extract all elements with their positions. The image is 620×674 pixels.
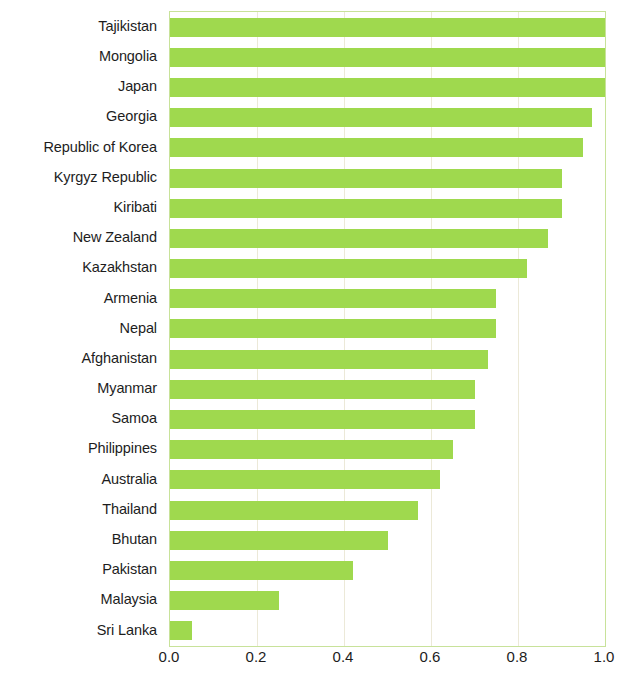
bar bbox=[170, 48, 605, 67]
bar bbox=[170, 78, 605, 97]
y-axis-label: Afghanistan bbox=[0, 343, 163, 373]
x-tick-label: 0.0 bbox=[159, 648, 180, 665]
bar-row bbox=[170, 314, 605, 344]
bar bbox=[170, 591, 279, 610]
y-axis-label: Kiribati bbox=[0, 192, 163, 222]
y-axis-label: Thailand bbox=[0, 494, 163, 524]
x-axis-tick-labels: 0.00.20.40.60.81.0 bbox=[169, 648, 606, 674]
y-axis-category-labels: TajikistanMongoliaJapanGeorgiaRepublic o… bbox=[0, 11, 163, 645]
y-axis-label: Tajikistan bbox=[0, 11, 163, 41]
bar-row bbox=[170, 616, 605, 646]
y-axis-label: Georgia bbox=[0, 102, 163, 132]
bar bbox=[170, 18, 605, 37]
bar-row bbox=[170, 374, 605, 404]
bar-row bbox=[170, 284, 605, 314]
bar-row bbox=[170, 254, 605, 284]
y-axis-label: Samoa bbox=[0, 403, 163, 433]
bar bbox=[170, 501, 418, 520]
y-axis-label: Republic of Korea bbox=[0, 132, 163, 162]
y-axis-label: Sri Lanka bbox=[0, 615, 163, 645]
bar-row bbox=[170, 223, 605, 253]
bar bbox=[170, 169, 562, 188]
bar-row bbox=[170, 344, 605, 374]
bar-row bbox=[170, 12, 605, 42]
plot-area bbox=[169, 11, 606, 647]
x-tick-label: 0.6 bbox=[420, 648, 441, 665]
y-axis-label: Malaysia bbox=[0, 585, 163, 615]
bar bbox=[170, 350, 488, 369]
y-axis-label: Kazakhstan bbox=[0, 253, 163, 283]
bar bbox=[170, 259, 527, 278]
y-axis-label: Japan bbox=[0, 71, 163, 101]
y-axis-label: Kyrgyz Republic bbox=[0, 162, 163, 192]
y-axis-label: Pakistan bbox=[0, 554, 163, 584]
bar bbox=[170, 470, 440, 489]
x-tick-label: 0.4 bbox=[333, 648, 354, 665]
bar-row bbox=[170, 465, 605, 495]
y-axis-label: Myanmar bbox=[0, 373, 163, 403]
bar-row bbox=[170, 193, 605, 223]
y-axis-label: Australia bbox=[0, 464, 163, 494]
bar-row bbox=[170, 525, 605, 555]
gridline bbox=[605, 12, 606, 646]
y-axis-label: New Zealand bbox=[0, 222, 163, 252]
bar bbox=[170, 531, 388, 550]
bar bbox=[170, 289, 496, 308]
bar-row bbox=[170, 163, 605, 193]
bar-row bbox=[170, 404, 605, 434]
bar bbox=[170, 561, 353, 580]
bar bbox=[170, 380, 475, 399]
y-axis-label: Philippines bbox=[0, 434, 163, 464]
bar-row bbox=[170, 42, 605, 72]
horizontal-bar-chart: TajikistanMongoliaJapanGeorgiaRepublic o… bbox=[0, 0, 620, 674]
bar-row bbox=[170, 133, 605, 163]
y-axis-label: Bhutan bbox=[0, 524, 163, 554]
y-axis-label: Armenia bbox=[0, 283, 163, 313]
bar-row bbox=[170, 495, 605, 525]
x-tick-label: 0.8 bbox=[507, 648, 528, 665]
bar-series bbox=[170, 12, 605, 646]
bar bbox=[170, 199, 562, 218]
bar bbox=[170, 319, 496, 338]
bar-row bbox=[170, 555, 605, 585]
bar bbox=[170, 440, 453, 459]
bar bbox=[170, 138, 583, 157]
y-axis-label: Mongolia bbox=[0, 41, 163, 71]
bar-row bbox=[170, 435, 605, 465]
x-tick-label: 0.2 bbox=[246, 648, 267, 665]
x-tick-label: 1.0 bbox=[594, 648, 615, 665]
bar bbox=[170, 621, 192, 640]
bar bbox=[170, 410, 475, 429]
bar bbox=[170, 108, 592, 127]
bar-row bbox=[170, 72, 605, 102]
bar-row bbox=[170, 586, 605, 616]
y-axis-label: Nepal bbox=[0, 313, 163, 343]
bar bbox=[170, 229, 548, 248]
bar-row bbox=[170, 103, 605, 133]
